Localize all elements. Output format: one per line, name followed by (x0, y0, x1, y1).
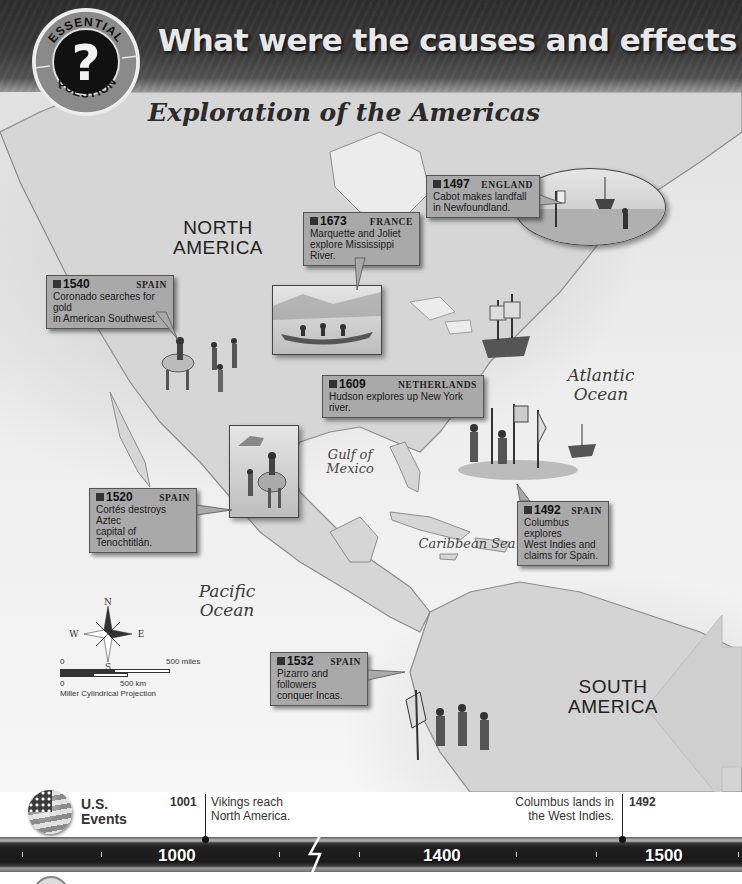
label-gulf-of-mexico: Gulf of Mexico (320, 448, 380, 476)
event-callout-1532: 1532 SPAIN Pizarro and followers conquer… (270, 652, 368, 706)
event-description: Marquette and Joliet explore Mississippi… (310, 228, 413, 261)
timeline-event-text: Vikings reach North America. (211, 795, 290, 823)
timeline-break-icon (306, 832, 328, 878)
event-year: 1673 (310, 216, 347, 227)
event-callout-1673: 1673 FRANCE Marquette and Joliet explore… (303, 212, 420, 266)
timeline-marker-dot (619, 836, 626, 843)
event-country: SPAIN (136, 280, 167, 291)
timeline-event-text: Columbus lands in the West Indies. (510, 795, 614, 823)
illustration-marquette-canoe (272, 285, 382, 355)
event-year: 1492 (524, 505, 561, 516)
label-pacific-ocean: Pacific Ocean (182, 582, 272, 620)
label-caribbean-sea: Caribbean Sea (412, 537, 522, 551)
timeline-tick-1000: 1000 (158, 846, 196, 866)
event-callout-1520: 1520 SPAIN Cortés destroys Aztec capital… (89, 488, 197, 553)
event-description: Pizarro and followers conquer Incas. (277, 668, 361, 701)
event-description: Hudson explores up New York river. (329, 391, 477, 413)
projection-label: Miller Cylindrical Projection (60, 689, 250, 698)
essential-question-badge: ESSENTIAL QUESTION ? (30, 6, 142, 118)
event-description: Columbus explores West Indies and claims… (524, 517, 602, 561)
essential-question-text: What were the causes and effects of (158, 22, 742, 58)
us-flag-globe-icon (28, 790, 72, 834)
world-events-globe-icon (33, 876, 69, 884)
event-country: ENGLAND (481, 180, 533, 191)
label-north-america: NORTH AMERICA (168, 218, 268, 258)
illustration-hudson-ship (478, 290, 534, 374)
event-callout-1609: 1609 NETHERLANDS Hudson explores up New … (322, 375, 484, 418)
event-year: 1532 (277, 656, 314, 667)
svg-text:E: E (138, 629, 145, 639)
event-year: 1609 (329, 379, 366, 390)
event-year: 1520 (96, 492, 133, 503)
event-description: Cortés destroys Aztec capital of Tenocht… (96, 504, 190, 548)
timeline-marker-line (205, 794, 206, 840)
event-description: Coronado searches for gold in American S… (53, 291, 167, 324)
timeline-event-1001: 1001 (170, 795, 197, 809)
event-description: Cabot makes landfall in Newfoundland. (433, 191, 533, 213)
event-callout-1492: 1492 SPAIN Columbus explores West Indies… (517, 501, 609, 566)
us-events-label: U.S. Events (28, 790, 127, 834)
event-country: NETHERLANDS (398, 380, 477, 391)
event-country: FRANCE (370, 217, 413, 228)
timeline-marker-dot (202, 836, 209, 843)
timeline-tick-1500: 1500 (645, 846, 683, 866)
event-callout-1540: 1540 SPAIN Coronado searches for gold in… (46, 275, 174, 329)
timeline-tick-1400: 1400 (423, 846, 461, 866)
map-title: Exploration of the Americas (148, 98, 540, 127)
map-scale: 0 500 miles 0 500 km Miller Cylindrical … (60, 657, 250, 698)
event-year: 1497 (433, 179, 470, 190)
illustration-pizarro-group (400, 690, 510, 774)
event-country: SPAIN (330, 657, 361, 668)
event-year: 1540 (53, 279, 90, 290)
label-south-america: SOUTH AMERICA (558, 677, 668, 717)
question-mark-icon: ? (71, 34, 100, 92)
label-atlantic-ocean: Atlantic Ocean (556, 366, 646, 404)
svg-text:W: W (69, 629, 79, 639)
svg-text:N: N (104, 598, 112, 607)
event-callout-1497: 1497 ENGLAND Cabot makes landfall in New… (426, 175, 540, 218)
timeline-bar: 1000 1400 1500 (0, 837, 742, 872)
event-country: SPAIN (159, 493, 190, 504)
timeline-marker-line (622, 794, 623, 840)
timeline-event-1492: 1492 (629, 795, 656, 809)
illustration-cortes (229, 425, 299, 518)
event-country: SPAIN (571, 506, 602, 517)
scale-bar (60, 669, 172, 678)
